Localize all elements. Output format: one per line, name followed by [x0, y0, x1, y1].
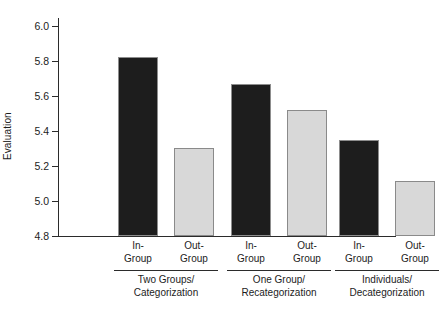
category-label-line1: Out-	[277, 240, 337, 253]
group-label: Two Groups/Categorization	[114, 274, 218, 299]
group-label: One Group/Recategorization	[227, 274, 331, 299]
category-label-line2: Group	[385, 253, 443, 266]
category-label-3: In-Group	[221, 240, 281, 265]
y-tick-label: 4.8	[34, 230, 49, 242]
bar-out-group-group1	[174, 148, 214, 235]
category-label-2: Out-Group	[164, 240, 224, 265]
tick-mark	[52, 131, 58, 132]
group-label-line1: One Group/	[227, 274, 331, 287]
tick-mark	[52, 96, 58, 97]
group-rule	[114, 270, 218, 271]
category-label-4: Out-Group	[277, 240, 337, 265]
category-label-line1: In-	[221, 240, 281, 253]
group-label-line2: Decategorization	[335, 287, 439, 300]
y-tick-label: 5.8	[34, 55, 49, 67]
y-tick-label: 5.0	[34, 195, 49, 207]
category-label-line2: Group	[221, 253, 281, 266]
group-1: Two Groups/Categorization	[114, 270, 218, 299]
category-labels: In-GroupOut-GroupIn-GroupOut-GroupIn-Gro…	[58, 240, 396, 274]
group-label-line2: Recategorization	[227, 287, 331, 300]
tick-mark	[52, 61, 58, 62]
category-label-line2: Group	[277, 253, 337, 266]
y-tick-label: 5.4	[34, 125, 49, 137]
bar-in-group-group1	[118, 57, 158, 235]
y-tick-label: 5.6	[34, 90, 49, 102]
category-label-line1: In-	[108, 240, 168, 253]
bar-out-group-group3	[395, 181, 435, 235]
group-rule	[227, 270, 331, 271]
category-label-5: In-Group	[329, 240, 389, 265]
bar-out-group-group2	[287, 110, 327, 236]
category-label-line2: Group	[108, 253, 168, 266]
category-label-line2: Group	[329, 253, 389, 266]
category-label-1: In-Group	[108, 240, 168, 265]
group-label-line1: Two Groups/	[114, 274, 218, 287]
tick-mark	[52, 236, 58, 237]
group-label: Individuals/Decategorization	[335, 274, 439, 299]
plot-area: 4.85.05.25.45.65.86.0	[58, 18, 396, 237]
category-label-line1: In-	[329, 240, 389, 253]
x-axis-line	[58, 236, 396, 237]
y-axis-line	[58, 18, 59, 237]
tick-mark	[52, 26, 58, 27]
group-rule	[335, 270, 439, 271]
bar-in-group-group3	[339, 140, 379, 236]
y-tick-label: 5.2	[34, 160, 49, 172]
group-labels: Two Groups/CategorizationOne Group/Recat…	[58, 270, 396, 310]
category-label-line1: Out-	[385, 240, 443, 253]
group-label-line1: Individuals/	[335, 274, 439, 287]
category-label-line1: Out-	[164, 240, 224, 253]
y-tick-label: 6.0	[34, 20, 49, 32]
bar-in-group-group2	[231, 84, 271, 236]
group-3: Individuals/Decategorization	[335, 270, 439, 299]
tick-mark	[52, 166, 58, 167]
group-2: One Group/Recategorization	[227, 270, 331, 299]
category-label-6: Out-Group	[385, 240, 443, 265]
y-axis-title: Evaluation	[2, 96, 20, 176]
category-label-line2: Group	[164, 253, 224, 266]
tick-mark	[52, 201, 58, 202]
group-label-line2: Categorization	[114, 287, 218, 300]
